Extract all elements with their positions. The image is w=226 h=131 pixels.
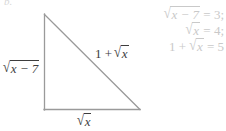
radical-sign-icon: √	[189, 37, 196, 54]
equation-value: 5	[218, 39, 225, 54]
equation-value: 4;	[214, 23, 224, 38]
relation-operator: =	[203, 23, 210, 38]
label-vertical-leg: √x − 7	[3, 60, 39, 75]
radical-expression: √x	[189, 38, 203, 54]
equation-prefix: 1 +	[169, 39, 186, 54]
radicand: x − 7	[10, 60, 40, 75]
label-hypotenuse-prefix: 1 +	[95, 46, 112, 61]
solution-equations: √x − 7 = 3; √x = 4; 1 + √x = 5	[146, 6, 224, 54]
relation-operator: =	[203, 7, 210, 22]
radical-expression: √x	[114, 45, 128, 60]
radicand: x	[84, 113, 92, 128]
figure-canvas: b. √x − 7 1 + √x √x √x − 7 = 3;	[0, 0, 226, 131]
radical-expression: √x − 7	[3, 60, 39, 75]
radical-sign-icon: √	[3, 59, 10, 74]
radical-expression: √x	[77, 113, 91, 128]
radicand: x	[196, 38, 204, 54]
triangle-hypotenuse	[45, 15, 141, 110]
label-hypotenuse: 1 + √x	[95, 45, 129, 60]
label-horizontal-leg: √x	[77, 113, 91, 128]
radical-expression: √x − 7	[164, 6, 200, 22]
equation-line-3: 1 + √x = 5	[146, 38, 224, 54]
radical-sign-icon: √	[77, 112, 84, 127]
relation-operator: =	[207, 39, 214, 54]
radical-sign-icon: √	[164, 5, 171, 22]
radical-sign-icon: √	[114, 44, 121, 59]
equation-value: 3;	[214, 7, 224, 22]
equation-line-2: √x = 4;	[146, 22, 224, 38]
radicand: x	[121, 45, 129, 60]
